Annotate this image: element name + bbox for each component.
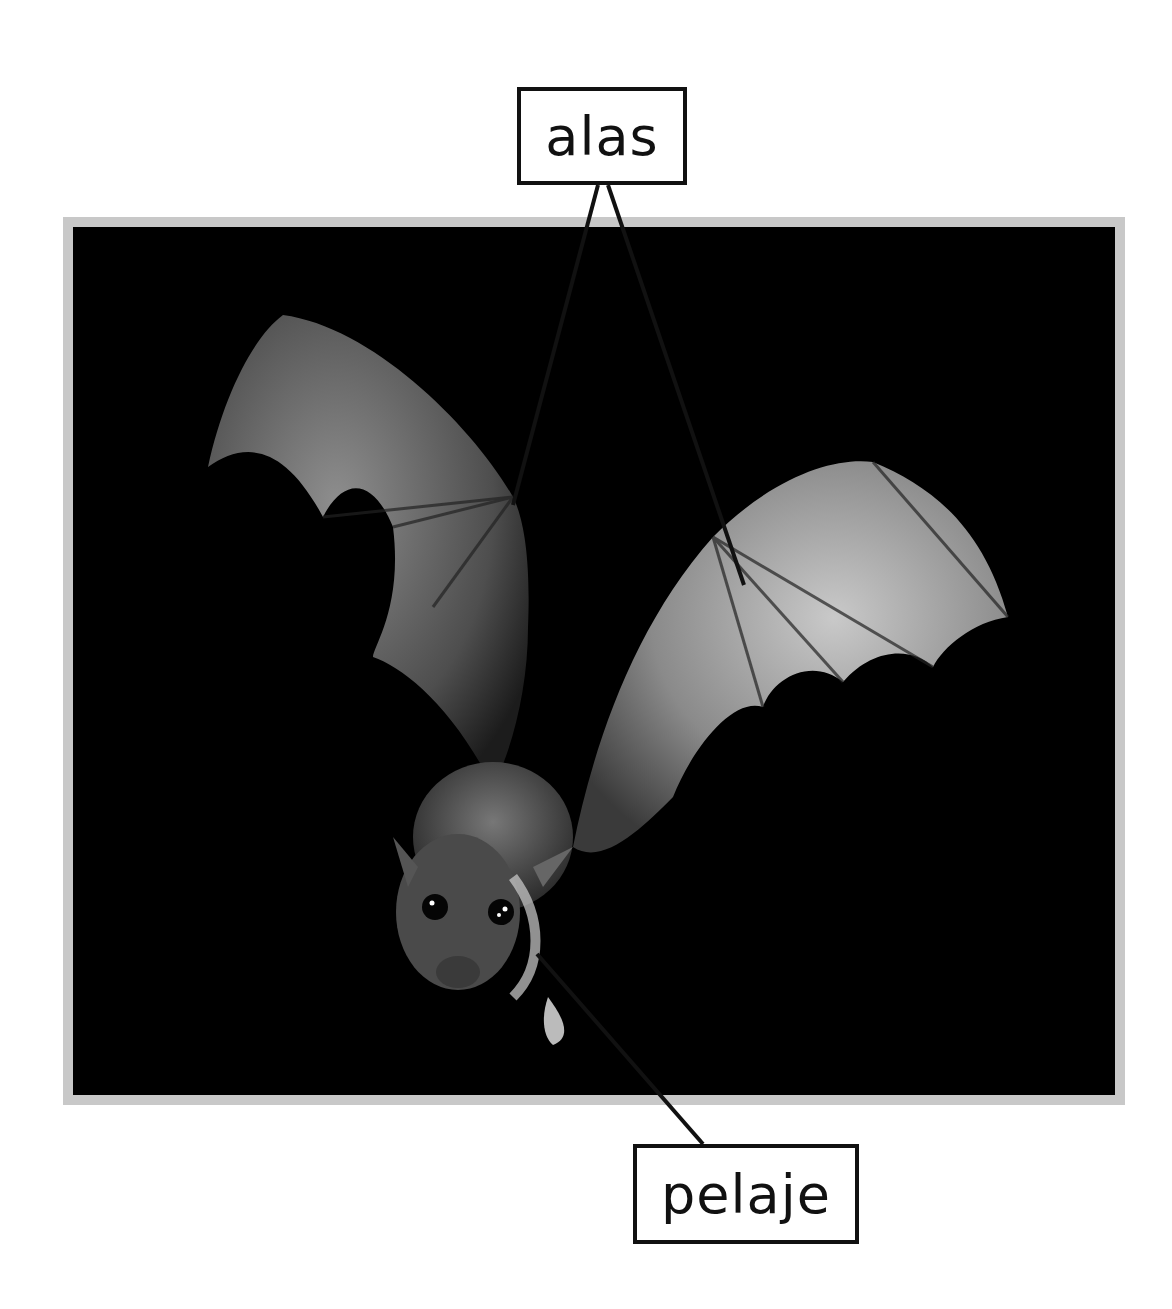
label-pelaje-text: pelaje bbox=[661, 1163, 831, 1226]
bat-illustration bbox=[73, 227, 1115, 1095]
label-alas: alas bbox=[517, 87, 687, 185]
label-pelaje: pelaje bbox=[633, 1144, 859, 1244]
label-alas-text: alas bbox=[545, 105, 658, 168]
bat-photo bbox=[73, 227, 1115, 1095]
photo-frame bbox=[63, 217, 1125, 1105]
right-wing bbox=[573, 461, 1008, 852]
left-wing bbox=[208, 315, 529, 787]
